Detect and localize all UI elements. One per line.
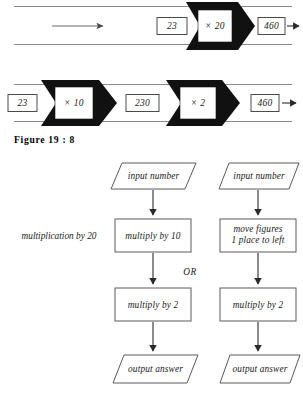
flowchart-right-column bbox=[219, 163, 300, 383]
band-bottom-intermediate-value: 230 bbox=[135, 98, 150, 109]
right-step-2-label: multiply by 2 bbox=[233, 300, 284, 310]
band-bottom-input-value: 23 bbox=[18, 98, 28, 109]
right-step-3-label: output answer bbox=[233, 364, 288, 374]
left-step-1-label: multiply by 10 bbox=[125, 231, 180, 241]
flowchart-side-label: multiplication by 20 bbox=[22, 231, 97, 241]
flowchart-or-label: OR bbox=[183, 267, 196, 277]
band-top-operation-label: × 20 bbox=[205, 21, 225, 32]
band-top-input-value: 23 bbox=[167, 21, 177, 32]
band-bottom bbox=[8, 80, 296, 126]
band-bottom-operation-first: × 10 bbox=[64, 98, 84, 109]
figure-vector-layer bbox=[0, 0, 303, 396]
right-step-0-label: input number bbox=[233, 171, 285, 181]
left-step-2-label: multiply by 2 bbox=[128, 300, 179, 310]
figure-page: 23 × 20 460 23 × 10 230 × 2 460 Figure 1… bbox=[0, 0, 303, 396]
figure-caption: Figure 19 : 8 bbox=[14, 134, 75, 145]
band-top-output-value: 460 bbox=[264, 21, 279, 32]
left-step-0-label: input number bbox=[128, 171, 180, 181]
band-bottom-operation-second: × 2 bbox=[191, 98, 206, 109]
right-step-1-label-line1: move figures bbox=[233, 224, 282, 234]
band-top bbox=[14, 2, 299, 50]
right-step-1-label-line2: 1 place to left bbox=[231, 236, 284, 246]
band-bottom-output-value: 460 bbox=[258, 98, 273, 109]
right-step-1-label: move figures 1 place to left bbox=[221, 224, 295, 247]
left-step-3-label: output answer bbox=[128, 364, 183, 374]
